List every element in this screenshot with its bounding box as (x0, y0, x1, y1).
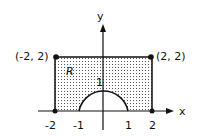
region-label: R (66, 65, 74, 78)
point-label-top-left: (-2, 2) (15, 50, 49, 63)
region-diagram: y x (-2, 2) (2, 2) R 1 -2 -1 1 2 (0, 0, 199, 136)
point-label-top-right: (2, 2) (156, 50, 186, 63)
x-tick-neg1: -1 (73, 119, 84, 132)
point-bottom-left (53, 109, 58, 114)
point-bottom-right (150, 109, 155, 114)
x-axis-arrow-icon (166, 108, 174, 114)
x-tick-1: 1 (125, 119, 132, 132)
semicircle-tick-label: 1 (96, 76, 103, 89)
point-top-right (148, 54, 154, 60)
x-axis-label: x (179, 105, 186, 118)
y-axis-label: y (97, 10, 104, 23)
x-tick-2: 2 (149, 119, 156, 132)
point-top-left (53, 54, 59, 60)
y-axis-arrow-icon (100, 24, 106, 32)
x-tick-neg2: -2 (45, 119, 56, 132)
